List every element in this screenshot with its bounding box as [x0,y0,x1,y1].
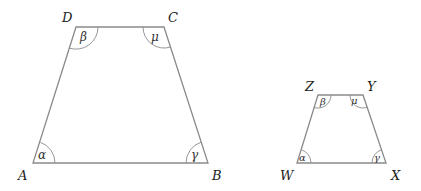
vertex-label-b: B [211,168,222,183]
large-trapezoid-outline [33,27,208,163]
angle-label-alpha-a: α [38,148,46,162]
vertex-label-d: D [61,10,73,25]
large-trapezoid: α γ μ β A B C D [17,10,222,183]
vertex-label-x: X [390,168,401,183]
angle-label-beta-d: β [79,30,87,44]
angle-label-alpha-w: α [299,152,306,163]
angle-label-gamma-b: γ [191,148,199,162]
small-trapezoid: α γ μ β W X Y Z [280,79,401,183]
angle-label-mu-y: μ [351,95,358,106]
vertex-label-y: Y [367,79,377,94]
similar-trapezoids-diagram: α γ μ β A B C D α γ μ β W X Y Z [0,0,421,191]
vertex-label-z: Z [304,79,315,94]
angle-label-mu-c: μ [151,30,159,44]
angle-label-beta-z: β [319,96,326,107]
vertex-label-c: C [168,10,178,25]
vertex-label-w: W [280,168,295,183]
angle-label-gamma-x: γ [374,152,380,163]
small-trapezoid-outline [297,95,386,163]
vertex-label-a: A [17,168,27,183]
